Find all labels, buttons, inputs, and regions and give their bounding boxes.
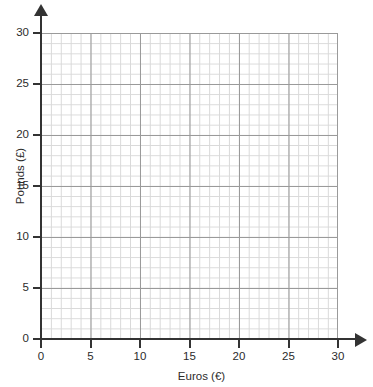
y-tick-20 (33, 134, 41, 136)
y-tick-label-0: 0 (0, 333, 29, 345)
x-tick-label-0: 0 (21, 351, 61, 363)
x-tick-15 (189, 340, 191, 348)
x-tick-label-20: 20 (219, 351, 259, 363)
grid-edge-top (41, 33, 338, 34)
arrow-up-icon (34, 4, 48, 16)
x-tick-5 (90, 340, 92, 348)
grid-edge-right (337, 33, 338, 339)
x-tick-label-15: 15 (170, 351, 210, 363)
x-axis-title: Euros (€) (0, 370, 373, 382)
y-axis-line (40, 14, 42, 340)
x-tick-25 (288, 340, 290, 348)
y-tick-label-5: 5 (0, 282, 29, 294)
y-axis-title: Pounds (£) (14, 86, 26, 266)
x-tick-label-30: 30 (318, 351, 358, 363)
arrow-right-icon (355, 333, 367, 347)
x-tick-30 (337, 340, 339, 348)
x-tick-20 (238, 340, 240, 348)
y-tick-25 (33, 83, 41, 85)
x-tick-0 (40, 340, 42, 348)
grid-major (41, 33, 338, 339)
conversion-graph: 30 25 20 15 10 5 0 0 5 10 15 20 25 30 Eu… (0, 0, 373, 387)
y-tick-10 (33, 236, 41, 238)
plot-area[interactable] (41, 33, 338, 339)
y-tick-30 (33, 32, 41, 34)
y-tick-5 (33, 287, 41, 289)
x-tick-10 (139, 340, 141, 348)
x-axis-line (40, 338, 357, 340)
x-tick-label-10: 10 (120, 351, 160, 363)
y-tick-15 (33, 185, 41, 187)
x-tick-label-25: 25 (269, 351, 309, 363)
y-tick-label-30: 30 (0, 27, 29, 39)
x-tick-label-5: 5 (71, 351, 111, 363)
